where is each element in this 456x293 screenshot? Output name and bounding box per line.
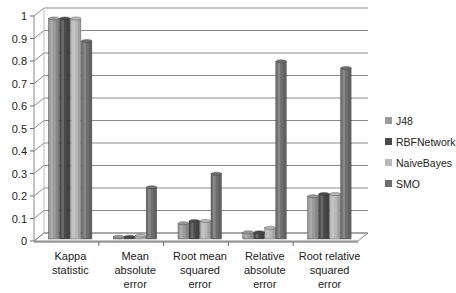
bar-naivebayes-3 (265, 226, 276, 239)
x-category-label: Kappa (54, 250, 87, 262)
bar-naivebayes-1 (135, 234, 146, 239)
x-category-label: squared (310, 264, 350, 276)
y-tick-label: 0.7 (12, 78, 27, 90)
legend-swatch (385, 159, 392, 166)
legend-item-smo: SMO (385, 173, 456, 194)
gridline-side (34, 76, 44, 84)
x-category-label: absolute (114, 264, 156, 276)
legend-label: RBFNetwork (396, 136, 456, 148)
bar-j48-0 (48, 17, 59, 239)
gridline-side (34, 53, 44, 61)
bar-naivebayes-4 (330, 192, 341, 239)
gridline-side (34, 121, 44, 129)
legend-item-rbfnetwork: RBFNetwork (385, 131, 456, 152)
gridline-side (34, 211, 44, 219)
legend-item-j48: J48 (385, 110, 456, 131)
gridline-side (34, 31, 44, 39)
gridline-side (34, 143, 44, 151)
x-category-label: error (253, 278, 277, 290)
y-tick-label: 0.4 (12, 145, 27, 157)
legend-label: J48 (396, 115, 413, 127)
bar-rbfnetwork-0 (59, 17, 70, 239)
legend-label: SMO (396, 178, 420, 190)
bar-rbfnetwork-3 (254, 231, 265, 239)
y-tick-label: 0.6 (12, 100, 27, 112)
legend-swatch (385, 180, 392, 187)
bar-smo-4 (341, 66, 352, 239)
legend-item-naivebayes: NaiveBayes (385, 152, 456, 173)
bar-smo-2 (211, 172, 222, 239)
bar-smo-3 (276, 60, 287, 239)
legend-swatch (385, 117, 392, 124)
x-category-label: error (318, 278, 342, 290)
x-category-label: Root mean (173, 250, 227, 262)
x-category-label: absolute (244, 264, 286, 276)
y-tick-label: 0.1 (12, 213, 27, 225)
bar-rbfnetwork-1 (124, 235, 135, 239)
y-tick-label: 1 (21, 10, 27, 22)
bar-naivebayes-2 (200, 219, 211, 239)
gridline-side (34, 98, 44, 106)
gridline-side (34, 166, 44, 174)
y-tick-label: 0.8 (12, 55, 27, 67)
bar-naivebayes-0 (70, 17, 81, 239)
y-tick-label: 0 (21, 235, 27, 247)
x-category-label: squared (180, 264, 220, 276)
y-tick-label: 0.3 (12, 168, 27, 180)
x-category-label: Mean (121, 250, 149, 262)
legend-swatch (385, 138, 392, 145)
bar-j48-3 (243, 231, 254, 239)
legend-label: NaiveBayes (396, 157, 452, 169)
bar-rbfnetwork-4 (319, 192, 330, 239)
bar-j48-4 (308, 195, 319, 239)
y-tick-label: 0.2 (12, 190, 27, 202)
x-category-label: error (188, 278, 212, 290)
gridline-side (34, 8, 44, 16)
bar-j48-2 (178, 222, 189, 239)
x-category-label: Relative (245, 250, 285, 262)
chart-legend: J48RBFNetworkNaiveBayesSMO (385, 110, 456, 194)
y-tick-label: 0.5 (12, 123, 27, 135)
bar-smo-0 (81, 39, 92, 239)
bar-smo-1 (146, 186, 157, 239)
bar-j48-1 (113, 235, 124, 239)
bar-rbfnetwork-2 (189, 219, 200, 239)
x-category-label: error (124, 278, 148, 290)
y-tick-label: 0.9 (12, 33, 27, 45)
x-category-label: Root relative (299, 250, 361, 262)
gridline-side (34, 188, 44, 196)
x-category-label: statistic (52, 264, 89, 276)
